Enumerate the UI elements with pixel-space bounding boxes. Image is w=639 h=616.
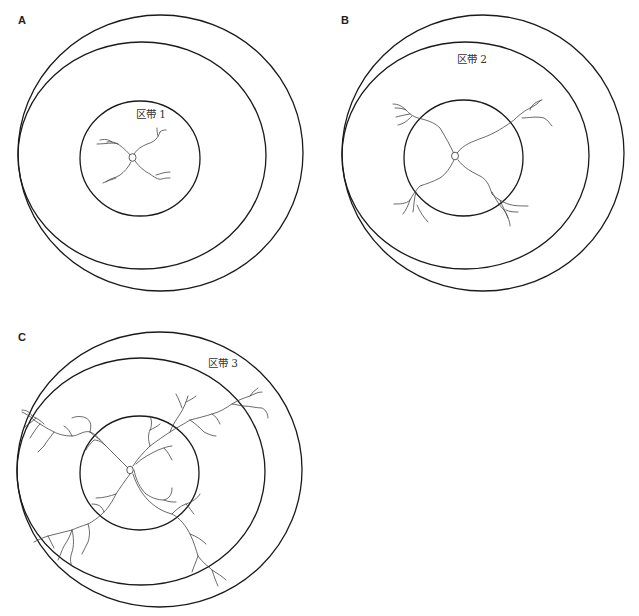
panel-letter-a: A bbox=[18, 14, 26, 26]
inner-ring bbox=[404, 100, 523, 216]
outer-ring bbox=[18, 15, 303, 291]
retina-zones-diagram: A 区带 1 B 区带 2 C 区带 3 bbox=[0, 0, 639, 616]
panel-b: B 区带 2 bbox=[341, 14, 624, 291]
panel-letter-c: C bbox=[18, 331, 26, 343]
panel-letter-b: B bbox=[341, 14, 349, 26]
middle-ring bbox=[18, 42, 266, 269]
middle-ring bbox=[342, 42, 589, 269]
panel-c: C 区带 3 bbox=[17, 331, 302, 607]
zone-label: 区带 1 bbox=[136, 108, 166, 120]
middle-ring bbox=[17, 358, 265, 585]
outer-ring bbox=[17, 332, 302, 607]
optic-disc bbox=[127, 466, 133, 474]
zone-label: 区带 3 bbox=[208, 357, 238, 369]
zone-label: 区带 2 bbox=[457, 53, 487, 65]
vessels bbox=[393, 100, 552, 226]
optic-disc bbox=[452, 152, 459, 160]
inner-ring bbox=[80, 416, 199, 530]
panel-a: A 区带 1 bbox=[18, 14, 303, 291]
optic-disc bbox=[129, 154, 136, 162]
